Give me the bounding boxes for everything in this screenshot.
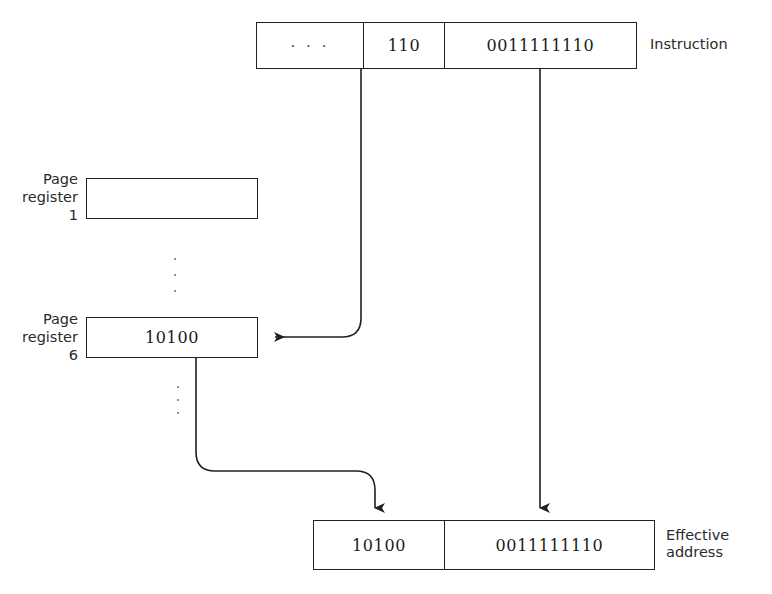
ellipsis-dot (174, 258, 176, 260)
page-field-connector (275, 69, 361, 337)
instruction-box: · · · 110 0011111110 (256, 22, 637, 69)
page-register-ellipsis-lower (173, 386, 183, 414)
instruction-opcode-field: · · · (257, 23, 363, 68)
page-register-6-box: 10100 (86, 317, 258, 358)
instruction-label: Instruction (650, 36, 728, 53)
page-register-6-label: Page register 6 (0, 310, 78, 364)
page-register-1-box (86, 178, 258, 219)
page-register-6-value: 10100 (87, 318, 257, 357)
ellipsis-dot (177, 386, 179, 388)
page-register-1-label: Page register 1 (0, 170, 78, 224)
effective-address-label: Effective address (666, 527, 729, 561)
effective-address-page-frame-field: 10100 (314, 521, 444, 569)
instruction-displacement-field: 0011111110 (444, 23, 636, 68)
diagram-canvas: · · · 110 0011111110 Instruction Page re… (0, 0, 772, 594)
page-register-ellipsis-upper (170, 258, 180, 292)
ellipsis-dot (177, 412, 179, 414)
page-register-connector (196, 358, 375, 508)
page-register-1-value (87, 179, 257, 218)
ellipsis-dot (177, 399, 179, 401)
instruction-page-field: 110 (363, 23, 444, 68)
ellipsis-dot (174, 290, 176, 292)
ellipsis-dot (174, 274, 176, 276)
connector-layer (0, 0, 772, 594)
effective-address-box: 10100 0011111110 (313, 520, 655, 570)
effective-address-displacement-field: 0011111110 (444, 521, 654, 569)
